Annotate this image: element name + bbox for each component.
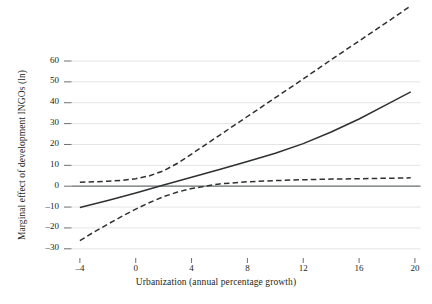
gridlines-group (72, 61, 421, 249)
y-tick-label-30: 30 (33, 117, 59, 127)
y-tick-label--10: –10 (33, 201, 59, 211)
x-tick-label-16: 16 (344, 263, 374, 273)
series-line-2 (80, 178, 411, 241)
x-tick-label-8: 8 (232, 263, 262, 273)
x-tick-label--4: –4 (65, 263, 95, 273)
y-tick-label-60: 60 (33, 55, 59, 65)
y-axis-tick-marks (64, 61, 72, 249)
x-tick-label-4: 4 (177, 263, 207, 273)
y-tick-label--30: –30 (33, 242, 59, 252)
y-tick-label-10: 10 (33, 159, 59, 169)
series-line-0 (80, 92, 411, 208)
y-tick-label-20: 20 (33, 138, 59, 148)
marginal-effects-plot: Marginal effect of development INGOs (ln… (0, 0, 432, 304)
y-tick-label--20: –20 (33, 221, 59, 231)
y-tick-label-0: 0 (33, 180, 59, 190)
y-tick-label-50: 50 (33, 75, 59, 85)
x-tick-label-0: 0 (121, 263, 151, 273)
series-line-1 (80, 6, 411, 182)
plot-canvas (0, 0, 432, 304)
y-axis-title: Marginal effect of development INGOs (ln… (17, 55, 27, 255)
x-tick-label-12: 12 (288, 263, 318, 273)
x-axis-title: Urbanization (annual percentage growth) (0, 277, 432, 287)
x-tick-label-20: 20 (400, 263, 430, 273)
y-tick-label-40: 40 (33, 96, 59, 106)
